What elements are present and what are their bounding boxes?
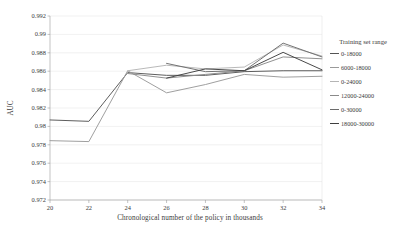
legend-items: 0-180006000-180000-2400012000-240000-300… — [330, 47, 393, 131]
y-axis-tick-label: 0.976 — [12, 159, 46, 166]
y-axis-title: AUC — [7, 88, 15, 128]
legend: Training set range 0-180006000-180000-24… — [330, 38, 393, 131]
legend-item[interactable]: 6000-18000 — [330, 61, 393, 75]
y-axis-tick-label: 0.992 — [12, 12, 46, 19]
x-axis-title: Chronological number of the policy in th… — [60, 214, 320, 222]
legend-item-label: 18000-30000 — [341, 120, 374, 127]
legend-item[interactable]: 0-18000 — [330, 47, 393, 61]
y-axis-tick-label: 0.984 — [12, 86, 46, 93]
legend-item[interactable]: 18000-30000 — [330, 117, 393, 131]
y-axis-tick-label: 0.986 — [12, 67, 46, 74]
x-axis-tick-label: 34 — [311, 204, 333, 211]
y-axis-tick-label: 0.988 — [12, 49, 46, 56]
legend-item[interactable]: 0-30000 — [330, 103, 393, 117]
y-axis-tick-label: 0.98 — [12, 122, 46, 129]
x-axis-tick-label: 30 — [233, 204, 255, 211]
legend-swatch-icon — [330, 67, 339, 68]
y-axis-tick-label: 0.974 — [12, 178, 46, 185]
legend-swatch-icon — [330, 123, 339, 124]
legend-swatch-icon — [330, 95, 339, 96]
series-line — [50, 71, 322, 142]
legend-item[interactable]: 12000-24000 — [330, 89, 393, 103]
legend-swatch-icon — [330, 53, 339, 54]
axis-lines — [48, 16, 323, 203]
series-line — [50, 71, 322, 122]
y-axis-tick-label: 0.99 — [12, 30, 46, 37]
legend-item-label: 0-30000 — [341, 106, 362, 113]
x-axis-tick-label: 32 — [272, 204, 294, 211]
series-lines — [50, 43, 322, 141]
legend-item-label: 12000-24000 — [341, 92, 374, 99]
legend-title: Training set range — [334, 38, 392, 47]
y-axis-tick-label: 0.978 — [12, 141, 46, 148]
x-axis-tick-label: 28 — [194, 204, 216, 211]
legend-item-label: 0-18000 — [341, 50, 362, 57]
x-axis-tick-label: 26 — [156, 204, 178, 211]
legend-swatch-icon — [330, 109, 339, 110]
auc-line-chart: 0.9920.990.9880.9860.9840.9820.980.9780.… — [0, 0, 393, 238]
legend-swatch-icon — [330, 81, 339, 82]
x-axis-tick-label: 22 — [78, 204, 100, 211]
y-axis-tick-label: 0.972 — [12, 196, 46, 203]
x-axis-tick-label: 20 — [39, 204, 61, 211]
legend-item-label: 0-24000 — [341, 78, 362, 85]
y-axis-tick-label: 0.982 — [12, 104, 46, 111]
gridlines — [50, 16, 322, 200]
legend-item[interactable]: 0-24000 — [330, 75, 393, 89]
x-axis-tick-label: 24 — [117, 204, 139, 211]
legend-item-label: 6000-18000 — [341, 64, 371, 71]
